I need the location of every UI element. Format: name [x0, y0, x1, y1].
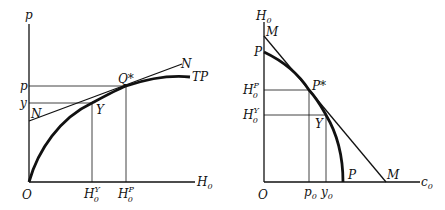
hp-tick-label: HP0	[117, 185, 134, 204]
right-y-axis-label: H0	[255, 9, 272, 25]
m-label-bottom: M	[386, 168, 400, 182]
right-x-axis-label: c0	[421, 175, 433, 191]
m-label-top: M	[265, 25, 279, 39]
hp-ytick-label: HP0	[242, 81, 259, 100]
n-label-top: N	[180, 57, 192, 71]
p0-tick-label: p0	[304, 185, 317, 201]
p-label-bottom: P	[347, 168, 357, 182]
y0-tick-label: y0	[320, 185, 333, 201]
p-label-top: P	[253, 45, 263, 59]
diagram-canvas: p H0 p y O TP N N Q* Y HY0 HP0 H0 c0 O M…	[0, 0, 445, 210]
p-tick-label: p	[20, 79, 28, 93]
left-diagram: p H0 p y O TP N N Q* Y HY0 HP0	[19, 8, 213, 204]
nn-tangent-line	[29, 64, 182, 121]
mm-line	[264, 36, 386, 182]
right-y-point-label: Y	[315, 117, 324, 131]
hy-ytick-label: HY0	[242, 106, 259, 125]
left-origin-label: O	[22, 188, 32, 202]
hy-tick-label: HY0	[83, 185, 100, 204]
tp-curve-label: TP	[192, 70, 209, 84]
p-star-label: P*	[311, 79, 326, 93]
q-star-label: Q*	[118, 72, 134, 86]
y-point-label: Y	[96, 103, 105, 117]
right-diagram: H0 c0 O M M P P P* Y HP0 HY0 p0 y0	[242, 9, 433, 202]
left-y-axis-label: p	[25, 8, 33, 22]
left-x-axis-label: H0	[196, 175, 213, 191]
tp-curve	[29, 76, 190, 182]
y-tick-label: y	[19, 96, 27, 110]
right-origin-label: O	[258, 188, 268, 202]
n-label-bottom: N	[30, 107, 42, 121]
